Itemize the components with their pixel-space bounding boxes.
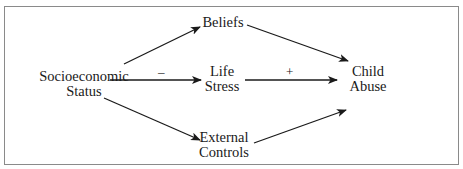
arrow-external-controls-to-child-abuse [254,110,346,143]
arrow-ses-to-beliefs [124,27,200,64]
node-ses-line2: Status [36,84,132,99]
arrow-beliefs-to-child-abuse [247,25,348,61]
node-life-stress-line1: Life [200,64,244,79]
sign-positive: + [286,65,293,78]
node-external-controls-line1: External [194,130,254,145]
node-beliefs-line1: Beliefs [198,15,248,30]
node-life-stress-line2: Stress [200,79,244,94]
node-life-stress: Life Stress [200,64,244,94]
node-ses-line1: Socioeconomic [36,69,132,84]
node-child-abuse: Child Abuse [343,64,393,94]
arrow-ses-to-external-controls [104,98,200,140]
node-external-controls-line2: Controls [194,145,254,160]
sign-negative: – [158,65,165,78]
node-child-abuse-line2: Abuse [343,79,393,94]
node-child-abuse-line1: Child [343,64,393,79]
node-beliefs: Beliefs [198,15,248,30]
node-socioeconomic-status: Socioeconomic Status [36,69,132,99]
node-external-controls: External Controls [194,130,254,160]
